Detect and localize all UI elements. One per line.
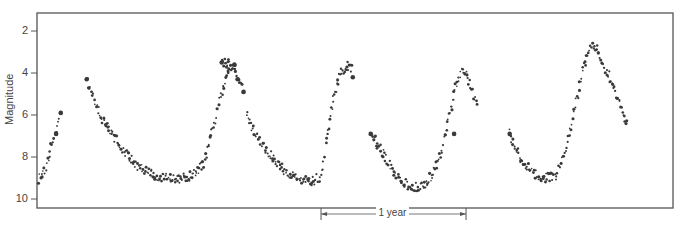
data-point [249, 118, 251, 120]
data-point [217, 103, 220, 106]
data-point [571, 124, 573, 126]
data-point [435, 167, 438, 170]
data-point [202, 166, 205, 169]
data-point [453, 89, 455, 91]
data-point [323, 156, 326, 159]
data-point [584, 60, 587, 63]
data-point [283, 173, 285, 175]
data-point [610, 80, 612, 82]
data-point [300, 177, 302, 179]
data-point [283, 168, 285, 170]
data-point [405, 178, 408, 181]
data-point [618, 99, 620, 101]
data-point [535, 169, 537, 171]
data-point [117, 144, 120, 147]
data-point [396, 177, 398, 179]
data-point-large [235, 77, 240, 82]
data-point [110, 132, 112, 134]
data-point [142, 168, 145, 171]
data-point [588, 50, 590, 52]
data-point [37, 182, 40, 185]
data-point [258, 139, 260, 141]
data-point [101, 122, 104, 125]
data-point [401, 180, 403, 182]
data-point [424, 186, 426, 188]
data-point [307, 177, 310, 180]
data-point [159, 175, 162, 178]
data-point [224, 83, 226, 85]
data-point [578, 89, 581, 92]
data-point [419, 188, 421, 190]
data-point [332, 101, 334, 103]
data-point [226, 65, 228, 67]
data-point [162, 173, 164, 175]
data-point [275, 161, 277, 163]
data-point [216, 107, 219, 110]
data-point [587, 55, 589, 57]
data-point [465, 73, 468, 76]
data-point [438, 158, 440, 160]
data-point [240, 83, 243, 86]
data-point [259, 143, 262, 146]
data-point [459, 71, 461, 73]
light-curve-chart [0, 0, 686, 232]
data-point [168, 177, 170, 179]
data-point [285, 172, 287, 174]
data-point [391, 167, 394, 170]
data-point [235, 75, 237, 77]
data-point [106, 122, 109, 125]
data-point [49, 156, 51, 158]
data-points [37, 42, 628, 193]
data-point [514, 148, 516, 150]
data-point [580, 78, 582, 80]
data-point [303, 177, 306, 180]
data-point [120, 148, 122, 150]
data-point [336, 78, 339, 81]
data-point [574, 107, 576, 109]
data-point [111, 131, 113, 133]
data-point [115, 135, 118, 138]
data-point [176, 180, 179, 183]
data-point-large [368, 132, 373, 137]
data-point [258, 136, 261, 139]
data-point [148, 167, 151, 170]
data-point [597, 52, 600, 55]
data-point [198, 173, 200, 175]
data-point [221, 93, 224, 96]
data-point [307, 180, 310, 183]
data-point [428, 172, 431, 175]
data-point [441, 152, 443, 154]
data-point [294, 176, 296, 178]
data-point [456, 85, 458, 87]
data-point [383, 149, 385, 151]
data-point [521, 160, 524, 163]
data-point [432, 174, 434, 176]
data-point [325, 142, 328, 145]
data-point [526, 166, 528, 168]
data-point [575, 97, 577, 99]
y-tick-label: 4 [8, 66, 28, 78]
data-point [174, 181, 176, 183]
data-point [511, 143, 514, 146]
data-point [517, 152, 519, 154]
data-point [438, 152, 441, 155]
data-point [285, 169, 287, 171]
data-point [248, 122, 250, 124]
data-point-large [232, 62, 237, 67]
data-point [591, 46, 593, 48]
data-point [246, 111, 248, 113]
data-point [98, 106, 100, 108]
data-point [571, 117, 574, 120]
data-point [250, 129, 252, 131]
data-point [246, 114, 248, 116]
data-point [328, 128, 331, 131]
data-point [122, 147, 124, 149]
data-point [350, 64, 353, 67]
data-point [171, 179, 173, 181]
data-point [403, 184, 405, 186]
data-point [181, 179, 183, 181]
data-point [108, 126, 110, 128]
y-tick-label: 8 [8, 150, 28, 162]
data-point [226, 75, 228, 77]
data-point [312, 176, 314, 178]
